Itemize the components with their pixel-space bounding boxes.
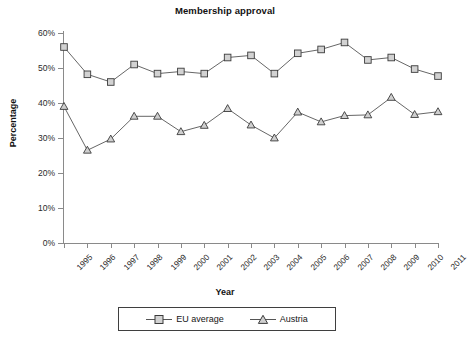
x-axis-tick-label: 2003 bbox=[261, 252, 281, 272]
x-axis-tick-label: 2009 bbox=[402, 252, 422, 272]
legend-item-eu-average[interactable]: EU average bbox=[146, 314, 224, 325]
data-point bbox=[341, 112, 349, 119]
data-point bbox=[294, 108, 302, 115]
x-axis-tick-label: 2001 bbox=[215, 252, 235, 272]
series-eu-average bbox=[61, 39, 442, 85]
x-axis-tick bbox=[181, 243, 182, 248]
data-point bbox=[61, 44, 68, 51]
x-axis-tick bbox=[87, 243, 88, 248]
x-axis-tick bbox=[321, 243, 322, 248]
x-axis-tick-label: 2005 bbox=[308, 252, 328, 272]
data-point bbox=[247, 121, 255, 128]
y-axis-tick-label: 20% bbox=[38, 168, 55, 178]
x-axis-tick-label: 1998 bbox=[145, 252, 165, 272]
y-axis-tick-label: 10% bbox=[38, 203, 55, 213]
legend-label-austria: Austria bbox=[280, 314, 308, 324]
x-axis-tick bbox=[274, 243, 275, 248]
data-point bbox=[365, 57, 372, 64]
data-point bbox=[271, 70, 278, 77]
x-axis-tick-label: 2008 bbox=[378, 252, 398, 272]
x-axis-tick-label: 1999 bbox=[168, 252, 188, 272]
x-axis-tick bbox=[134, 243, 135, 248]
x-axis-tick bbox=[251, 243, 252, 248]
y-axis-tick-label: 50% bbox=[38, 63, 55, 73]
chart-title: Membership approval bbox=[0, 5, 450, 16]
x-axis-tick-label: 1995 bbox=[74, 252, 94, 272]
data-point bbox=[224, 105, 232, 112]
x-axis-tick-label: 2004 bbox=[285, 252, 305, 272]
x-axis-tick bbox=[228, 243, 229, 248]
y-axis-tick-label: 60% bbox=[38, 28, 55, 38]
x-axis-tick bbox=[345, 243, 346, 248]
data-point bbox=[388, 54, 395, 61]
series-layer bbox=[64, 33, 438, 243]
x-axis-tick bbox=[204, 243, 205, 248]
x-axis-tick-label: 1996 bbox=[98, 252, 118, 272]
data-point bbox=[341, 39, 348, 46]
square-marker-icon bbox=[146, 314, 172, 325]
x-axis-tick bbox=[111, 243, 112, 248]
x-axis-tick bbox=[298, 243, 299, 248]
x-axis-tick-label: 2010 bbox=[425, 252, 445, 272]
x-axis-title: Year bbox=[0, 287, 450, 297]
data-point bbox=[178, 68, 185, 75]
data-point bbox=[154, 70, 161, 77]
triangle-marker-icon bbox=[250, 314, 276, 325]
y-axis-tick-label: 0% bbox=[43, 238, 55, 248]
data-point bbox=[154, 112, 162, 119]
x-axis-tick-label: 2002 bbox=[238, 252, 258, 272]
y-axis-title: Percentage bbox=[8, 81, 18, 165]
data-point bbox=[411, 66, 418, 73]
plot-area: 0%10%20%30%40%50%60% 1995199619971998199… bbox=[64, 33, 438, 243]
data-point bbox=[201, 70, 208, 77]
x-axis-tick-label: 2011 bbox=[448, 252, 468, 272]
data-point bbox=[294, 50, 301, 57]
data-point bbox=[107, 79, 114, 86]
x-axis-tick bbox=[158, 243, 159, 248]
x-axis-tick-label: 2000 bbox=[191, 252, 211, 272]
data-point bbox=[318, 46, 325, 53]
chart-legend: EU average Austria bbox=[118, 307, 336, 331]
data-point bbox=[131, 61, 138, 68]
legend-label-eu-average: EU average bbox=[176, 314, 224, 324]
x-axis-tick-label: 1997 bbox=[121, 252, 141, 272]
x-axis-tick bbox=[391, 243, 392, 248]
data-point bbox=[130, 112, 138, 119]
y-axis-tick-label: 40% bbox=[38, 98, 55, 108]
series-austria bbox=[60, 93, 442, 153]
x-axis-tick-label: 2007 bbox=[355, 252, 375, 272]
data-point bbox=[248, 52, 255, 59]
data-point bbox=[84, 71, 91, 78]
data-point bbox=[200, 121, 208, 128]
data-point bbox=[434, 108, 442, 115]
x-axis-tick-label: 2006 bbox=[332, 252, 352, 272]
data-point bbox=[364, 111, 372, 118]
x-axis-tick bbox=[368, 243, 369, 248]
data-point bbox=[224, 54, 231, 61]
x-axis-tick bbox=[438, 243, 439, 248]
x-axis-tick bbox=[415, 243, 416, 248]
data-point bbox=[83, 146, 91, 153]
legend-item-austria[interactable]: Austria bbox=[250, 314, 308, 325]
x-axis-tick bbox=[64, 243, 65, 248]
y-axis-tick-label: 30% bbox=[38, 133, 55, 143]
data-point bbox=[387, 93, 395, 100]
data-point bbox=[435, 73, 442, 80]
